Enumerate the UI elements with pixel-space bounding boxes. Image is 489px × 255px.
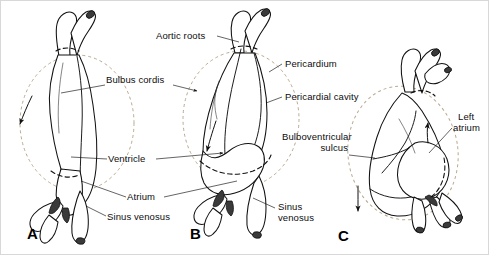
label-pericardial-cavity: Pericardial cavity (285, 91, 359, 102)
panel-letter-a: A (27, 225, 38, 242)
label-aortic-roots: Aortic roots (156, 30, 205, 41)
label-left-atrium-line1: Left (458, 111, 474, 122)
panel-letter-b: B (190, 225, 201, 242)
label-ventricle: Ventricle (108, 153, 145, 164)
label-sinus-venosus-b-line1: Sinus (278, 201, 302, 212)
label-bulboventricular-sulcus-line2: sulcus (282, 142, 348, 153)
label-bulbus-cordis: Bulbus cordis (106, 74, 164, 85)
diagram-artwork: .o { fill:#ffffff; stroke:#111; stroke-w… (1, 1, 489, 255)
label-pericardium: Pericardium (285, 58, 337, 69)
label-sinus-venosus-b-line2: venosus (278, 212, 314, 223)
label-sinus-venosus-a: Sinus venosus (107, 211, 170, 222)
label-atrium: Atrium (127, 191, 155, 202)
panel-a-artwork (20, 9, 134, 245)
label-bulboventricular-sulcus-line1: Bulboventricular (282, 131, 352, 142)
panel-c-artwork (340, 48, 466, 234)
figure-embryonic-heart-looping: .o { fill:#ffffff; stroke:#111; stroke-w… (0, 0, 489, 255)
label-left-atrium-line2: atrium (453, 122, 480, 133)
panel-letter-c: C (338, 227, 349, 244)
